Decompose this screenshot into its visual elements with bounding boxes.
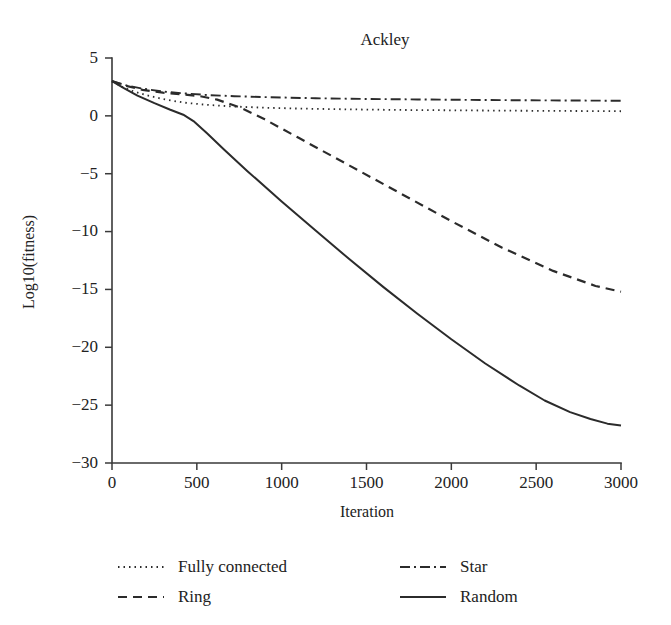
x-tick-label: 0 (108, 473, 117, 492)
y-tick-label: −5 (80, 164, 98, 183)
chart-title: Ackley (360, 30, 410, 49)
x-tick-label: 1500 (350, 473, 384, 492)
y-tick-label: −10 (71, 221, 98, 240)
y-axis-title: Log10(fitness) (20, 215, 38, 309)
chart-title-group: Ackley (360, 30, 410, 49)
series-line (112, 81, 621, 292)
series-group (112, 81, 621, 425)
legend-label: Fully connected (178, 557, 288, 576)
series-line (112, 81, 621, 101)
x-tick-label: 1000 (265, 473, 299, 492)
y-tick-label: 0 (90, 106, 99, 125)
y-tick-label: 5 (90, 48, 99, 67)
series-line (112, 81, 621, 425)
chart-legend: Fully connectedStarRingRandom (118, 557, 518, 606)
y-tick-label: −15 (71, 279, 98, 298)
x-tick-label: 2500 (519, 473, 553, 492)
legend-label: Ring (178, 587, 212, 606)
y-tick-label: −20 (71, 337, 98, 356)
y-tick-label: −25 (71, 395, 98, 414)
x-axis-title: Iteration (340, 503, 394, 520)
x-tick-label: 3000 (604, 473, 638, 492)
figure-container: Ackley 50−5−10−15−20−25−3005001000150020… (0, 0, 671, 625)
y-tick-label: −30 (71, 453, 98, 472)
series-line (112, 81, 621, 111)
legend-label: Star (460, 557, 488, 576)
legend-label: Random (460, 587, 518, 606)
x-tick-label: 2000 (434, 473, 468, 492)
ackley-convergence-chart: Ackley 50−5−10−15−20−25−3005001000150020… (0, 0, 671, 625)
x-tick-label: 500 (184, 473, 210, 492)
